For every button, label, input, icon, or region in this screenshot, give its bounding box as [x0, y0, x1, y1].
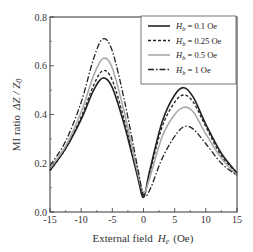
legend-label: Hb = 0.5 Oe: [175, 50, 217, 61]
x-tick-label: 5: [172, 214, 177, 225]
x-tick-label: 10: [201, 214, 211, 225]
y-tick-label: 0.6: [35, 60, 48, 71]
legend: Hb = 0.1 OeHb = 0.25 OeHb = 0.5 OeHb = 1…: [141, 16, 236, 84]
x-tick-label: 0: [141, 214, 146, 225]
y-tick-label: 0.4: [35, 109, 48, 120]
series-line: [50, 70, 237, 194]
x-tick-label: -5: [108, 214, 116, 225]
x-axis-title: External fieldHe(Oe): [93, 232, 194, 246]
y-tick-label: 0.0: [35, 207, 48, 218]
legend-label: Hb = 0.1 Oe: [175, 21, 217, 32]
y-tick-label: 0.2: [35, 158, 48, 169]
mi-ratio-chart: -15-10-50510150.00.20.40.60.8 Hb = 0.1 O…: [0, 0, 253, 252]
y-tick-label: 0.8: [35, 12, 48, 23]
x-tick-label: 15: [232, 214, 242, 225]
y-axis-title: MI ratioΔZ / Z0: [10, 79, 24, 152]
x-tick-label: -10: [74, 214, 87, 225]
legend-label: Hb = 0.25 Oe: [175, 36, 222, 47]
legend-label: Hb = 1 Oe: [175, 65, 211, 76]
